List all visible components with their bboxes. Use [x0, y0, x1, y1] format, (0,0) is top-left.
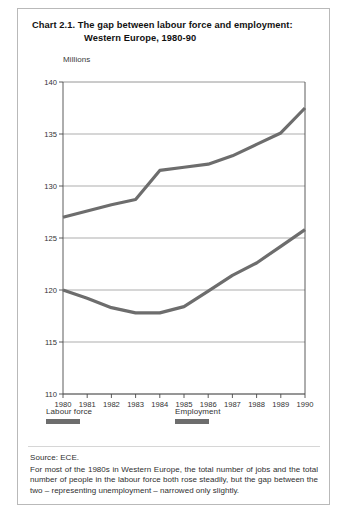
y-tick-label: 115 — [45, 338, 57, 347]
legend-item-employment: Employment — [175, 407, 220, 424]
y-tick-label: 135 — [44, 130, 57, 139]
series-line-labour-force — [63, 108, 305, 217]
series-line-employment — [63, 230, 305, 313]
note-text: For most of the 1980s in Western Europe,… — [30, 465, 318, 497]
y-tick-label: 130 — [44, 182, 57, 191]
chart-figure: Chart 2.1. The gap between labour force … — [17, 8, 330, 505]
legend-item-labour-force: Labour force — [46, 407, 92, 424]
legend-label-employment: Employment — [175, 407, 220, 416]
chart-notes: Source: ECE. For most of the 1980s in We… — [30, 453, 318, 496]
y-tick-label: 140 — [44, 78, 57, 87]
chart-svg: 1101151201251301351401980198119821983198… — [18, 9, 331, 409]
y-tick-label: 110 — [45, 390, 57, 399]
legend-swatch-labour-force — [46, 419, 80, 424]
legend-label-labour-force: Labour force — [46, 407, 92, 416]
legend-swatch-employment — [175, 419, 209, 424]
y-tick-label: 120 — [44, 286, 57, 295]
y-tick-label: 125 — [44, 234, 57, 243]
notes-divider — [28, 446, 320, 447]
source-line: Source: ECE. — [30, 453, 318, 464]
chart-legend: Labour force Employment — [18, 407, 331, 441]
